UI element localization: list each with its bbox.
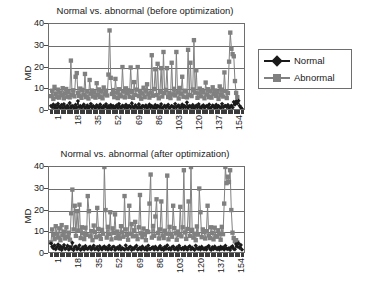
data-point-square [204, 229, 208, 233]
data-point-square [153, 67, 157, 71]
x-minor-tick [203, 253, 204, 257]
data-point-square [107, 232, 111, 236]
x-minor-tick [149, 253, 150, 257]
data-point-square [178, 86, 182, 90]
legend-label-normal: Normal [290, 55, 325, 67]
x-minor-tick [58, 253, 59, 257]
data-point-square [153, 214, 157, 218]
data-point-square [161, 50, 165, 54]
data-point-square [132, 80, 136, 84]
data-point-square [132, 228, 136, 232]
x-minor-tick [142, 253, 143, 257]
y-axis-before: MD 010203040 [26, 16, 48, 117]
y-tick-label: 20 [34, 62, 44, 72]
data-point-square [124, 227, 128, 231]
x-minor-tick [78, 110, 79, 114]
data-point-square [74, 234, 78, 238]
data-point-square [86, 96, 90, 100]
legend-entry-normal-before: Normal [264, 53, 325, 69]
data-point-square [95, 206, 99, 210]
data-point-square [235, 95, 239, 99]
data-point-square [190, 228, 194, 232]
data-point-square [113, 212, 117, 216]
x-tick-label: 1 [54, 115, 63, 120]
data-point-square [162, 236, 166, 240]
x-minor-tick [207, 110, 208, 114]
x-minor-tick [191, 253, 192, 257]
data-point-square [182, 168, 186, 172]
data-point-square [110, 226, 114, 230]
x-minor-tick [174, 110, 175, 114]
data-point-square [232, 54, 236, 58]
x-minor-tick [239, 253, 240, 257]
legend-swatch-abnormal [264, 72, 290, 84]
data-point-square [138, 193, 142, 197]
x-tick-label: 1 [54, 258, 63, 263]
x-minor-tick [162, 110, 163, 114]
y-tick-label: 30 [34, 40, 44, 50]
data-point-square [174, 50, 178, 54]
data-point-square [92, 223, 96, 227]
figure-two-panel-md-chart: Normal vs. abnormal (before optimization… [0, 0, 366, 286]
x-minor-tick [187, 110, 188, 114]
data-point-square [186, 199, 190, 203]
data-point-square [100, 228, 104, 232]
x-minor-ticks-before [48, 110, 245, 114]
data-point-square [222, 201, 226, 205]
data-point-square [158, 90, 162, 94]
x-minor-tick [117, 110, 118, 114]
data-point-square [133, 220, 137, 224]
y-axis-after: MD 010203040 [26, 159, 48, 260]
x-minor-tick [70, 253, 71, 257]
x-tick-label: 69 [136, 258, 145, 268]
data-point-square [62, 229, 66, 233]
data-point-square [228, 30, 232, 34]
x-minor-tick [226, 110, 227, 114]
data-point-diamond [185, 100, 189, 104]
data-point-square [227, 59, 231, 63]
x-tick-label: 86 [156, 258, 165, 268]
x-tick-label: 69 [135, 115, 144, 125]
data-point-square [70, 187, 74, 191]
data-point-square [55, 232, 59, 236]
data-point-square [234, 91, 238, 95]
plot-frame-after [48, 166, 245, 253]
diamond-marker-icon [271, 55, 282, 66]
x-minor-tick [112, 253, 113, 257]
x-minor-tick [106, 253, 107, 257]
data-point-square [228, 168, 232, 172]
data-point-square [105, 93, 109, 97]
data-point-square [194, 238, 198, 242]
x-tick-label: 137 [215, 115, 224, 130]
data-point-square [178, 205, 182, 209]
data-point-square [229, 47, 233, 51]
data-point-square [159, 66, 163, 70]
x-minor-tick [84, 110, 85, 114]
data-point-square [148, 172, 152, 176]
data-point-square [158, 227, 162, 231]
data-point-square [154, 197, 158, 201]
data-point-square [87, 209, 91, 213]
x-tick-label: 35 [95, 258, 104, 268]
data-point-square [109, 237, 113, 241]
x-minor-tick [197, 253, 198, 257]
x-minor-tick [200, 110, 201, 114]
x-minor-tick [168, 110, 169, 114]
x-minor-tick [129, 110, 130, 114]
x-minor-tick [219, 110, 220, 114]
data-point-square [106, 225, 110, 229]
x-minor-tick [167, 253, 168, 257]
data-point-square [83, 226, 87, 230]
data-point-square [222, 70, 226, 74]
data-point-square [88, 234, 92, 238]
data-point-square [226, 91, 230, 95]
x-minor-tick [94, 253, 95, 257]
x-tick-label: 120 [197, 258, 206, 273]
plot-frame-before [48, 23, 245, 110]
data-point-square [100, 96, 104, 100]
x-minor-tick [161, 253, 162, 257]
data-point-square [113, 77, 117, 81]
data-point-square [180, 225, 184, 229]
x-minor-tick [59, 110, 60, 114]
legend-entry-abnormal-before: Abnormal [264, 70, 335, 86]
